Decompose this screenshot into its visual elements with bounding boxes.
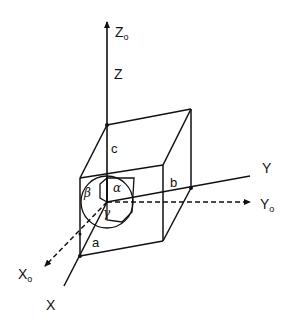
svg-text:a: a [92,235,100,250]
svg-text:Z: Z [114,66,123,82]
svg-text:c: c [111,141,118,156]
x-axis [64,202,107,286]
svg-text:α: α [113,181,121,195]
x0-axis [45,202,107,266]
svg-text:Y: Y [262,160,272,176]
svg-text:Xo: Xo [18,266,32,284]
svg-text:Zo: Zo [115,24,129,42]
svg-text:Yo: Yo [260,196,274,214]
svg-text:b: b [170,175,177,190]
svg-text:γ: γ [103,206,111,220]
svg-text:β: β [83,186,91,200]
labels: Zo Z c b a Y Yo Xo X α β γ [18,24,274,313]
svg-text:X: X [46,297,56,313]
unit-cell-diagram: Zo Z c b a Y Yo Xo X α β γ [0,0,288,327]
y-axis [107,176,250,202]
